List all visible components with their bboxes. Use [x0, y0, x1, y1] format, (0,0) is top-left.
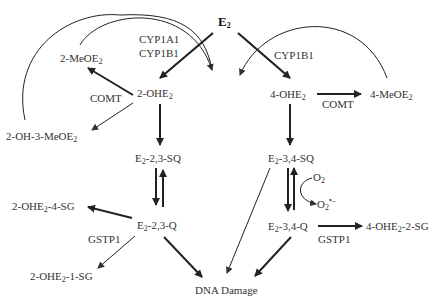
enzyme-comt-left: COMT: [90, 92, 122, 104]
node-superoxide: O2•–: [317, 198, 336, 210]
node-2-ohe2-1-sg: 2-OHE2-1-SG: [30, 270, 93, 282]
node-e2-2-3-q: E2-2,3-Q: [137, 219, 177, 231]
node-4-ohe2-2-sg: 4-OHE2-2-SG: [366, 220, 429, 232]
node-4-meoe2: 4-MeOE2: [370, 88, 413, 100]
node-e2-2-3-sq: E2-2,3-SQ: [135, 152, 181, 164]
node-o2: O2: [313, 171, 325, 183]
enzyme-comt-right: COMT: [322, 98, 354, 110]
enzyme-gstp1-left: GSTP1: [88, 233, 120, 245]
arrow-e223q-to-2ohe24sg: [88, 207, 132, 218]
feedback-arc-2oh3meoe2: [23, 15, 120, 120]
enzyme-cyp1b1-left: CYP1B1: [139, 47, 179, 59]
node-e2: E2: [218, 16, 231, 28]
arrow-e223q-to-dna: [164, 237, 202, 277]
node-2-oh-3-meoe2: 2-OH-3-MeOE2: [6, 130, 77, 142]
arrow-2ohe2-to-2oh3meoe2: [92, 103, 133, 130]
node-e2-3-4-q: E2-3,4-Q: [268, 220, 308, 232]
node-2-ohe2-4-sg: 2-OHE2-4-SG: [12, 200, 75, 212]
pathway-arrows: [0, 0, 439, 304]
arrow-e234q-to-dna: [255, 237, 291, 276]
node-2-meoe2: 2-MeOE2: [60, 52, 103, 64]
enzyme-cyp1b1-right: CYP1B1: [274, 49, 314, 61]
arrow-2ohe2-to-2meoe2: [88, 68, 133, 95]
node-e2-3-4-sq: E2-3,4-SQ: [268, 152, 314, 164]
enzyme-cyp1a1: CYP1A1: [139, 33, 179, 45]
node-dna-damage: DNA Damage: [195, 284, 258, 296]
arrow-e234sq-to-dna: [227, 168, 270, 273]
node-4-ohe2: 4-OHE2: [270, 88, 306, 100]
enzyme-gstp1-right: GSTP1: [318, 233, 350, 245]
node-2-ohe2: 2-OHE2: [137, 87, 173, 99]
